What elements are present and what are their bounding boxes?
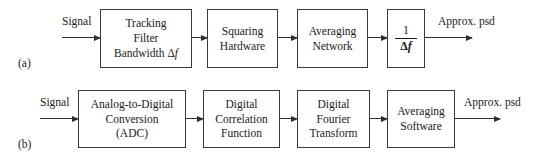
block-dft-line-3: Transform xyxy=(309,126,357,141)
delta-symbol-denominator: Δ xyxy=(400,39,408,53)
block-dft-line-2: Fourier xyxy=(317,112,351,127)
connector-arrow-b1 xyxy=(186,118,203,119)
input-label-b: Signal xyxy=(40,97,69,109)
connector-arrow-b3 xyxy=(370,118,387,119)
output-arrow-b xyxy=(455,118,500,119)
fraction-one-over-delta-f: 1 Δf xyxy=(395,24,417,52)
block-digital-correlation-function: Digital Correlation Function xyxy=(203,90,280,148)
block-digital-fourier-transform: Digital Fourier Transform xyxy=(297,90,370,148)
block-averaging-network-line-2: Network xyxy=(312,39,352,54)
block-squaring-hardware-line-2: Hardware xyxy=(220,39,265,54)
block-adc-line-3: (ADC) xyxy=(116,126,148,141)
block-correlation-line-2: Correlation xyxy=(215,112,267,127)
output-label-b: Approx. psd xyxy=(464,97,521,109)
connector-arrow-a3 xyxy=(368,37,387,38)
input-label-a: Signal xyxy=(62,16,91,28)
delta-symbol: Δ xyxy=(167,47,174,59)
block-averaging-software: Averaging Software xyxy=(387,90,455,148)
block-adc-line-1: Analog-to-Digital xyxy=(91,97,173,112)
block-averaging-network-line-1: Averaging xyxy=(309,24,357,39)
block-tracking-filter-line-2: Filter xyxy=(134,31,159,46)
output-arrow-a xyxy=(425,37,472,38)
output-label-a: Approx. psd xyxy=(438,16,495,28)
connector-arrow-a2 xyxy=(278,37,297,38)
f-symbol-denominator: f xyxy=(408,39,412,53)
f-symbol: f xyxy=(175,47,178,59)
input-arrow-b xyxy=(40,118,78,119)
connector-arrow-b2 xyxy=(280,118,297,119)
block-tracking-filter-line-3: Bandwidth Δf xyxy=(114,46,178,61)
block-tracking-filter-line-1: Tracking xyxy=(125,16,166,31)
block-dft-line-1: Digital xyxy=(318,97,350,112)
block-inverse-bandwidth: 1 Δf xyxy=(387,9,425,68)
block-squaring-hardware: Squaring Hardware xyxy=(207,9,278,68)
block-tracking-filter: Tracking Filter Bandwidth Δf xyxy=(100,9,192,68)
block-squaring-hardware-line-1: Squaring xyxy=(222,24,264,39)
input-arrow-a xyxy=(62,37,100,38)
block-analog-to-digital-conversion: Analog-to-Digital Conversion (ADC) xyxy=(78,90,186,148)
block-averaging-software-line-2: Software xyxy=(400,119,442,134)
fraction-numerator: 1 xyxy=(398,24,414,38)
row-label-a: (a) xyxy=(18,58,31,70)
block-correlation-line-3: Function xyxy=(221,126,262,141)
block-correlation-line-1: Digital xyxy=(226,97,258,112)
fraction-denominator: Δf xyxy=(395,39,417,53)
block-adc-line-2: Conversion xyxy=(105,112,158,127)
row-label-b: (b) xyxy=(18,139,31,151)
block-averaging-software-line-1: Averaging xyxy=(397,104,445,119)
block-averaging-network: Averaging Network xyxy=(297,9,368,68)
connector-arrow-a1 xyxy=(192,37,207,38)
block-diagram-figure: (a) Signal Tracking Filter Bandwidth Δf … xyxy=(0,0,544,162)
